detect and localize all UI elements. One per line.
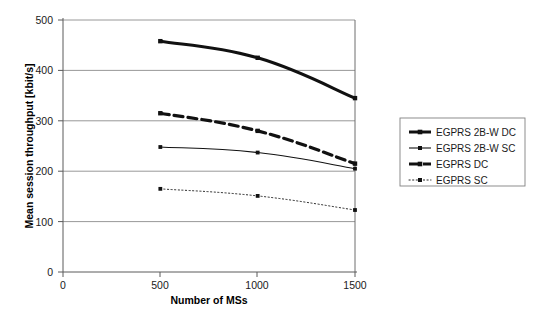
data-point-marker: [353, 167, 357, 171]
data-point-marker: [353, 96, 357, 100]
x-tick-label-500: 500: [151, 279, 169, 291]
y-tick-label-400: 400: [35, 64, 53, 76]
x-tick-label-0: 0: [60, 279, 66, 291]
legend-label: EGPRS 2B-W SC: [436, 143, 515, 154]
x-tick-label-1500: 1500: [343, 279, 367, 291]
legend-item-2[interactable]: EGPRS 2B-W SC: [409, 143, 515, 154]
data-point-marker: [353, 208, 357, 212]
data-point-marker: [353, 161, 357, 165]
x-axis: 0 500 1000 1500: [60, 272, 367, 291]
legend-marker-swatch: [418, 130, 423, 135]
y-tick-label-100: 100: [35, 216, 53, 228]
legend-item-1[interactable]: EGPRS 2B-W DC: [409, 127, 516, 138]
x-axis-title: Number of MSs: [170, 294, 247, 306]
y-tick-label-0: 0: [47, 266, 53, 278]
y-tick-label-200: 200: [35, 165, 53, 177]
legend-item-3[interactable]: EGPRS DC: [409, 159, 488, 170]
data-point-marker: [255, 129, 259, 133]
legend-marker-swatch: [418, 162, 423, 167]
legend-label: EGPRS DC: [436, 159, 488, 170]
legend-marker-swatch: [418, 178, 422, 182]
data-point-marker: [158, 187, 162, 191]
data-point-marker: [158, 39, 162, 43]
y-tick-label-500: 500: [35, 14, 53, 26]
y-axis-title: Mean session throughput [kbit/s]: [23, 63, 35, 228]
legend-marker-swatch: [418, 146, 422, 150]
data-point-marker: [256, 194, 260, 198]
chart-figure: 500 400 300 200 100 0 Mean session throu…: [0, 0, 533, 322]
legend-label: EGPRS 2B-W DC: [436, 127, 516, 138]
x-tick-label-1000: 1000: [245, 279, 269, 291]
legend: EGPRS 2B-W DCEGPRS 2B-W SCEGPRS DCEGPRS …: [400, 118, 525, 186]
data-point-marker: [158, 111, 162, 115]
data-point-marker: [255, 56, 259, 60]
chart-svg: 500 400 300 200 100 0 Mean session throu…: [0, 0, 533, 322]
data-point-marker: [158, 145, 162, 149]
legend-item-4[interactable]: EGPRS SC: [409, 175, 488, 186]
y-tick-label-300: 300: [35, 115, 53, 127]
legend-entries: EGPRS 2B-W DCEGPRS 2B-W SCEGPRS DCEGPRS …: [409, 127, 516, 186]
legend-label: EGPRS SC: [436, 175, 488, 186]
data-point-marker: [256, 151, 260, 155]
y-axis: 500 400 300 200 100 0: [35, 14, 63, 278]
